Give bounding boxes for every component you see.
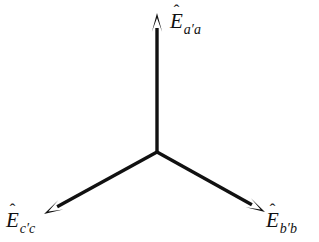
- arrowhead-c-phase: [44, 200, 63, 214]
- subscript-c-second: c: [29, 221, 35, 236]
- subscript-c-phase: c′c: [20, 222, 36, 236]
- subscript-b-phase: b′b: [280, 222, 297, 236]
- vector-shaft-b-phase: [157, 152, 252, 205]
- subscript-b-second: b: [290, 221, 297, 236]
- symbol-base-c: E: [6, 208, 19, 232]
- symbol-E-hat-a: ̂ E: [170, 4, 183, 32]
- symbol-E-hat-c: ̂ E: [6, 203, 19, 231]
- arrowhead-b-phase: [246, 198, 265, 212]
- symbol-E-hat-b: ̂ E: [266, 203, 279, 231]
- subscript-b-first: b: [280, 221, 287, 236]
- subscript-a-first: a: [184, 22, 191, 37]
- symbol-base-b: E: [266, 208, 279, 232]
- subscript-a-second: a: [194, 22, 201, 37]
- vector-label-a-phase: ̂ E a′a: [170, 4, 200, 32]
- vector-shaft-c-phase: [57, 152, 157, 207]
- vector-label-b-phase: ̂ E b′b: [266, 203, 296, 231]
- subscript-a-phase: a′a: [184, 23, 201, 37]
- symbol-base-a: E: [170, 9, 183, 33]
- phasor-diagram-figure: ̂ E a′a ̂ E b′b ̂ E c′c: [0, 0, 319, 242]
- vector-label-c-phase: ̂ E c′c: [6, 203, 34, 231]
